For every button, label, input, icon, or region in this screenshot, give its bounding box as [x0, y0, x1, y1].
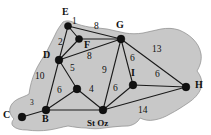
- edge-weight-G-StOz: 9: [102, 66, 107, 76]
- edge-weight-A-D: 5: [70, 64, 75, 74]
- node-label-F: F: [84, 40, 90, 50]
- node-C[interactable]: [18, 113, 26, 121]
- node-E[interactable]: [64, 22, 71, 29]
- weighted-graph-map-figure: E F G D H I B C St Oz 1 2 8 8 13 6 9 6 6…: [0, 0, 211, 135]
- edge-weight-StOz-H: 14: [138, 106, 148, 116]
- edge-weight-B-D: 10: [35, 72, 45, 82]
- edge-weight-F-G: 8: [94, 22, 99, 32]
- edge-weight-StOz-A: 4: [89, 85, 94, 95]
- node-label-G: G: [116, 20, 124, 30]
- edge-weight-A-B: 6: [57, 86, 62, 96]
- node-F[interactable]: [75, 35, 82, 42]
- node-label-E: E: [62, 7, 69, 17]
- node-H[interactable]: [182, 83, 190, 91]
- edge-weight-D-G: 8: [87, 52, 92, 62]
- edge-weight-I-H: 6: [155, 70, 160, 80]
- node-label-I: I: [131, 68, 135, 78]
- edge-weight-E-D: 2: [58, 38, 63, 48]
- edge-weight-G-H: 13: [152, 45, 162, 55]
- node-label-H: H: [195, 80, 203, 90]
- node-StOz[interactable]: [99, 106, 107, 114]
- node-label-st-oz: St Oz: [87, 119, 108, 128]
- edge-weight-B-C: 3: [30, 99, 34, 107]
- edge-weight-G-I: 6: [130, 54, 135, 64]
- node-label-D: D: [43, 50, 50, 60]
- node-D[interactable]: [55, 56, 63, 64]
- node-label-C: C: [3, 110, 10, 120]
- node-label-B: B: [42, 114, 49, 124]
- edge-weight-E-F: 1: [72, 17, 77, 27]
- node-G[interactable]: [117, 35, 125, 43]
- node-I[interactable]: [129, 81, 137, 89]
- node-A[interactable]: [73, 85, 81, 93]
- edge-weight-I-StOz: 6: [113, 84, 118, 94]
